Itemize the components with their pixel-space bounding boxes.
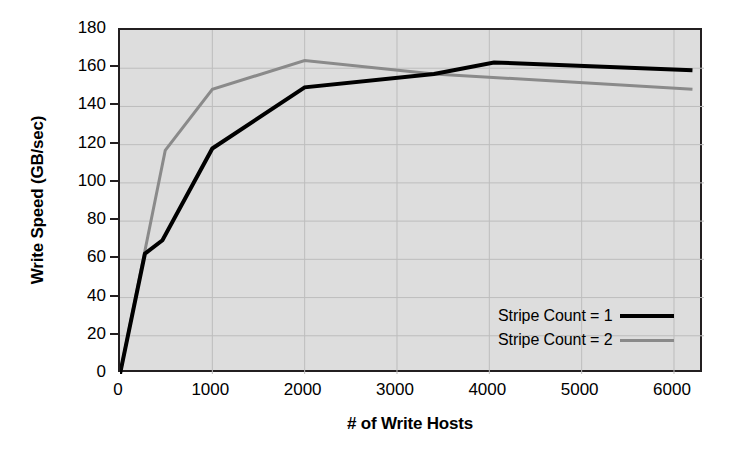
x-tick-label: 5000 — [540, 380, 620, 400]
legend-label-series-1: Stripe Count = 1 — [498, 307, 612, 325]
x-tick-label: 3000 — [355, 380, 435, 400]
y-tick-mark — [110, 103, 118, 105]
legend: Stripe Count = 1 Stripe Count = 2 — [498, 304, 694, 352]
y-tick-mark — [110, 256, 118, 258]
y-tick-mark — [110, 180, 118, 182]
y-axis-title: Write Speed (GB/sec) — [18, 28, 58, 372]
legend-swatch-series-2 — [620, 339, 674, 342]
x-tick-label: 6000 — [632, 380, 712, 400]
y-tick-mark — [110, 333, 118, 335]
x-axis-title: # of Write Hosts — [118, 414, 702, 434]
x-tick-label: 0 — [78, 380, 158, 400]
y-tick-mark — [110, 295, 118, 297]
y-tick-mark — [110, 142, 118, 144]
x-tick-label: 4000 — [447, 380, 527, 400]
x-tick-label: 1000 — [170, 380, 250, 400]
y-tick-mark — [110, 65, 118, 67]
legend-swatch-series-1 — [620, 314, 674, 318]
chart-figure: Write Speed (GB/sec) 0204060801001201401… — [0, 0, 736, 457]
x-tick-label: 2000 — [263, 380, 343, 400]
plot-area: Stripe Count = 1 Stripe Count = 2 — [118, 28, 702, 372]
y-tick-mark — [110, 218, 118, 220]
legend-item: Stripe Count = 1 — [498, 304, 694, 328]
legend-item: Stripe Count = 2 — [498, 328, 694, 352]
legend-label-series-2: Stripe Count = 2 — [498, 331, 612, 349]
